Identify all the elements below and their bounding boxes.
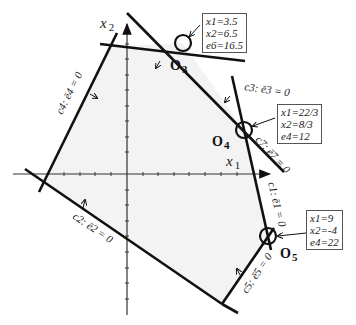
o4-x1-value: x1=22/3	[281, 106, 318, 118]
pointer-o3	[190, 25, 200, 36]
vertex-o4-info-box: x1=22/3 x2=8/3 e4=12	[277, 104, 322, 144]
o3-e6-value: e6=16.5	[206, 39, 243, 51]
diagram-canvas: x2 x1 O3 O4 O5 c4: ē4 = 0 c3: ē3 = 0 c7:…	[0, 0, 356, 325]
vertex-o5-label: O5	[280, 246, 298, 263]
o4-x2-value: x2=8/3	[281, 118, 318, 130]
o5-x2-value: x2=-4	[310, 224, 339, 236]
constraint-line-c5-ext	[222, 304, 238, 313]
o3-x1-value: x1=3.5	[206, 15, 243, 27]
y-axis-label: x2	[99, 15, 114, 33]
direction-arrow-c7	[225, 96, 230, 102]
o5-x1-value: x1=9	[310, 212, 339, 224]
o4-e4-value: e4=12	[281, 130, 318, 142]
vertex-o5-info-box: x1=9 x2=-4 e4=22	[306, 210, 343, 250]
vertex-o3-info-box: x1=3.5 x2=6.5 e6=16.5	[202, 13, 247, 53]
constraint-label-c1: c1: ē1 = 0	[266, 181, 289, 229]
o5-e4-value: e4=22	[310, 236, 339, 248]
o3-x2-value: x2=6.5	[206, 27, 243, 39]
pointer-o4	[253, 118, 275, 126]
pointer-o5	[278, 233, 306, 236]
constraint-label-c3: c3: ē3 = 0	[244, 80, 291, 98]
